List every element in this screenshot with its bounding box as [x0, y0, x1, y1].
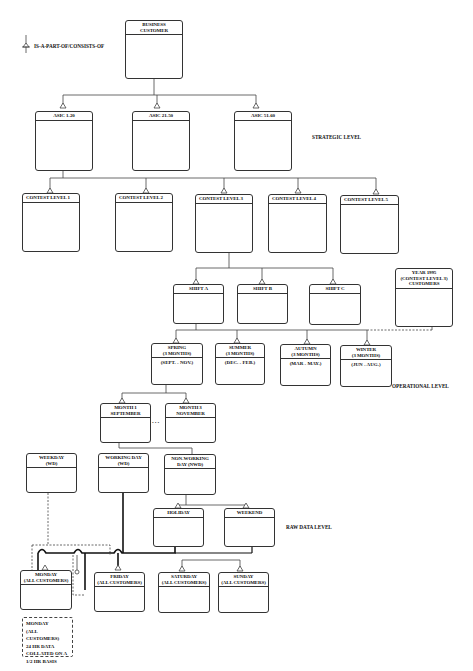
node-title: YEAR 1995 (CONTEST LEVEL 3) CUSTOMERS — [396, 269, 452, 289]
node-title: MONTH 3 NOVEMBER — [166, 404, 215, 418]
season-range: (MAR - MAY.) — [281, 359, 330, 366]
raw-data-level-label: RAW DATA LEVEL — [286, 524, 332, 530]
node-title: CONTEST LEVEL 2 — [116, 194, 172, 203]
node-saturday[interactable]: SATURDAY (ALL CUSTOMERS) — [158, 572, 210, 613]
node-winter[interactable]: WINTER (3 MONTHS) (JUN - AUG.) — [340, 345, 392, 387]
season-range: (DEC. - FEB.) — [216, 358, 264, 365]
node-monday[interactable]: MONDAY (ALL CUSTOMERS) — [20, 570, 72, 610]
node-title: ASIC 51-60 — [235, 112, 291, 121]
node-title: SPRING (3 MONTHS) — [152, 344, 202, 358]
node-title: WINTER (3 MONTHS) — [341, 346, 391, 360]
node-title: SUMMER (3 MONTHS) — [216, 344, 264, 358]
node-weekday[interactable]: WEEKDAY (WD) — [26, 453, 77, 493]
season-range: (SEPT. - NOV.) — [152, 358, 202, 365]
node-shift-a[interactable]: SHIFT A — [173, 284, 224, 324]
node-contest-level-4[interactable]: CONTEST LEVEL 4 — [268, 194, 327, 253]
node-asic-51-60[interactable]: ASIC 51-60 — [234, 111, 292, 171]
strategic-level-label: STRATEGIC LEVEL — [312, 134, 361, 140]
node-title: FRIDAY (ALL CUSTOMERS) — [95, 573, 144, 587]
node-title: CONTEST LEVEL 5 — [341, 196, 398, 205]
node-title: SUNDAY (ALL CUSTOMERS) — [219, 573, 268, 587]
node-autumn[interactable]: AUTUMN (3 MONTHS) (MAR - MAY.) — [280, 344, 331, 386]
node-contest-level-2[interactable]: CONTEST LEVEL 2 — [115, 193, 173, 252]
node-title: CONTEST LEVEL 3 — [196, 195, 252, 204]
season-range: (JUN - AUG.) — [341, 360, 391, 367]
node-title: CONTEST LEVEL 4 — [269, 195, 326, 204]
node-title: WEEKEND — [225, 509, 274, 518]
node-month-september[interactable]: MONTH 1 SEPTEMBER — [100, 403, 151, 443]
node-summer[interactable]: SUMMER (3 MONTHS) (DEC. - FEB.) — [215, 343, 265, 385]
node-friday[interactable]: FRIDAY (ALL CUSTOMERS) — [94, 572, 145, 612]
node-contest-level-1[interactable]: CONTEST LEVEL 1 — [22, 193, 80, 252]
node-business-customer[interactable]: BUSINESS CUSTOMER — [125, 20, 183, 79]
node-title: BUSINESS CUSTOMER — [126, 21, 182, 35]
node-title: MONDAY (ALL CUSTOMERS) — [21, 571, 71, 585]
node-non-working-day[interactable]: NON-WORKING DAY (NWD) — [164, 454, 216, 495]
node-shift-c[interactable]: SHIFT C — [309, 284, 361, 325]
node-title: ASIC 21-50 — [133, 112, 189, 121]
node-holiday[interactable]: HOLIDAY — [153, 508, 204, 547]
node-title: NON-WORKING DAY (NWD) — [165, 455, 215, 469]
node-title: MONTH 1 SEPTEMBER — [101, 404, 150, 418]
ellipsis: ... — [152, 417, 160, 425]
node-working-day[interactable]: WORKING DAY (WD) — [98, 453, 149, 493]
node-title: SHIFT B — [238, 285, 287, 294]
node-title: WORKING DAY (WD) — [99, 454, 148, 468]
node-title: SHIFT A — [174, 285, 223, 294]
monday-note: MONDAY (ALL CUSTOMERS) 24 HR DATA COLLAT… — [22, 617, 73, 657]
node-title: ASIC 1-20 — [36, 112, 92, 121]
node-asic-21-50[interactable]: ASIC 21-50 — [132, 111, 190, 171]
node-asic-1-20[interactable]: ASIC 1-20 — [35, 111, 93, 171]
legend-label: IS-A-PART-OF/CONSISTS-OF — [34, 43, 104, 49]
node-sunday[interactable]: SUNDAY (ALL CUSTOMERS) — [218, 572, 269, 613]
node-weekend[interactable]: WEEKEND — [224, 508, 275, 547]
node-title: WEEKDAY (WD) — [27, 454, 76, 468]
node-title: SHIFT C — [310, 285, 360, 294]
operational-level-label: OPERATIONAL LEVEL — [392, 383, 449, 389]
node-month-november[interactable]: MONTH 3 NOVEMBER — [165, 403, 216, 443]
node-title: CONTEST LEVEL 1 — [23, 194, 79, 203]
node-contest-level-3[interactable]: CONTEST LEVEL 3 — [195, 194, 253, 253]
node-contest-level-5[interactable]: CONTEST LEVEL 5 — [340, 195, 399, 254]
node-title: HOLIDAY — [154, 509, 203, 518]
node-title: SATURDAY (ALL CUSTOMERS) — [159, 573, 209, 587]
node-shift-b[interactable]: SHIFT B — [237, 284, 288, 324]
node-title: AUTUMN (3 MONTHS) — [281, 345, 330, 359]
node-spring[interactable]: SPRING (3 MONTHS) (SEPT. - NOV.) — [151, 343, 203, 385]
node-year-1995[interactable]: YEAR 1995 (CONTEST LEVEL 3) CUSTOMERS — [395, 268, 453, 327]
